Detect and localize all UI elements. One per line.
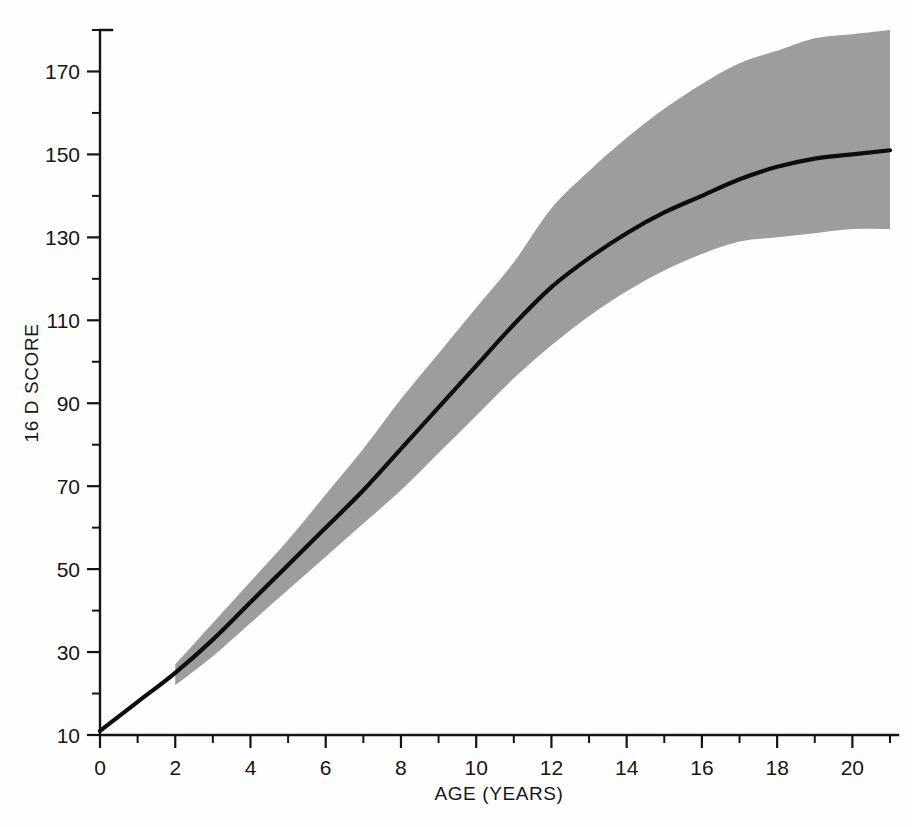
y-axis-tick-label: 170 [45,60,80,83]
x-axis-tick-label: 10 [465,756,488,779]
y-axis-tick-label: 90 [57,392,80,415]
y-axis-ticks [87,30,100,735]
x-axis-tick-label: 8 [395,756,407,779]
y-axis-tick-label: 30 [57,641,80,664]
y-axis-tick-labels: 1701501301109070503010 [45,60,80,747]
y-axis-tick-label: 110 [47,309,80,332]
y-axis-tick-label: 150 [45,143,80,166]
x-axis-tick-label: 12 [540,756,563,779]
shaded-range-band [175,30,890,685]
x-axis-tick-label: 0 [94,756,106,779]
x-axis-ticks [100,735,890,748]
chart-figure: 1701501301109070503010 02468101214161820… [0,0,912,827]
y-axis-tick-label: 50 [57,558,80,581]
y-axis-tick-label: 130 [45,226,80,249]
x-axis-tick-label: 2 [169,756,181,779]
x-axis-title: AGE (YEARS) [434,783,563,804]
x-axis-tick-labels: 02468101214161820 [94,756,864,779]
y-axis-tick-label: 10 [57,724,80,747]
x-axis-tick-label: 6 [320,756,332,779]
y-axis-tick-label: 70 [57,475,80,498]
y-axis-title: 16 D SCORE [21,324,42,443]
x-axis-tick-label: 16 [690,756,713,779]
x-axis-tick-label: 4 [245,756,257,779]
x-axis-tick-label: 18 [765,756,788,779]
chart-svg: 1701501301109070503010 02468101214161820… [0,0,912,827]
x-axis-tick-label: 14 [615,756,639,779]
x-axis-tick-label: 20 [841,756,864,779]
